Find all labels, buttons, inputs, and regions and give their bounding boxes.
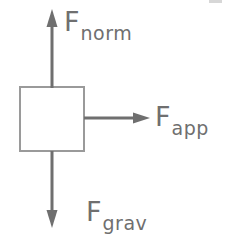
applied-arrow-shaft bbox=[84, 117, 136, 120]
force-label-gravity: Fgrav bbox=[86, 198, 146, 225]
object-box bbox=[20, 87, 84, 151]
normal-arrow-head bbox=[47, 9, 58, 27]
scan-artifact-smudge bbox=[209, 0, 222, 3]
force-label-gravity-base: F bbox=[86, 196, 102, 227]
force-label-applied: Fapp bbox=[155, 103, 208, 130]
force-label-gravity-subscript: grav bbox=[103, 212, 148, 234]
free-body-diagram: Fnorm Fapp Fgrav bbox=[0, 0, 226, 248]
force-label-applied-subscript: app bbox=[172, 117, 209, 139]
force-label-normal-base: F bbox=[64, 6, 80, 37]
gravity-arrow-shaft bbox=[51, 151, 54, 213]
force-label-applied-base: F bbox=[155, 101, 171, 132]
gravity-arrow-head bbox=[47, 210, 58, 228]
force-arrow-normal bbox=[47, 9, 58, 88]
force-label-normal: Fnorm bbox=[64, 8, 131, 35]
force-arrow-gravity bbox=[47, 151, 58, 228]
force-label-normal-subscript: norm bbox=[81, 22, 133, 44]
applied-arrow-head bbox=[133, 113, 150, 124]
normal-arrow-shaft bbox=[51, 24, 54, 88]
force-arrow-applied bbox=[84, 113, 150, 124]
